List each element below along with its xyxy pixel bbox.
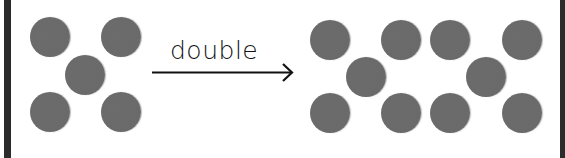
dot bbox=[430, 20, 470, 60]
dot bbox=[502, 20, 542, 60]
right-arrow-icon bbox=[150, 60, 296, 84]
diagram-frame: double bbox=[0, 0, 565, 158]
dot bbox=[101, 17, 141, 57]
dot bbox=[430, 93, 470, 133]
dot bbox=[381, 93, 421, 133]
dot bbox=[30, 17, 70, 57]
dot bbox=[65, 55, 105, 95]
dot bbox=[310, 93, 350, 133]
dot bbox=[30, 92, 70, 132]
dot bbox=[346, 57, 386, 97]
frame-border-right bbox=[560, 0, 565, 158]
frame-border-left bbox=[4, 0, 11, 158]
dot bbox=[381, 20, 421, 60]
dot bbox=[466, 57, 506, 97]
dot bbox=[101, 92, 141, 132]
dot bbox=[502, 93, 542, 133]
dot bbox=[310, 20, 350, 60]
